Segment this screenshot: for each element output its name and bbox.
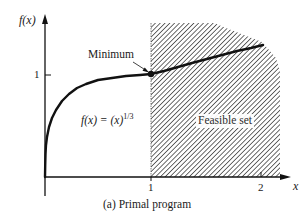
y-axis-arrow-icon bbox=[42, 14, 48, 24]
minimum-point bbox=[148, 71, 154, 77]
feasible-set-label: Feasible set bbox=[196, 114, 254, 128]
minimum-pointer-arrowhead-icon bbox=[143, 67, 150, 72]
function-label-base: f(x) = (x) bbox=[81, 114, 123, 126]
function-label: f(x) = (x)1/3 bbox=[81, 113, 133, 127]
x-axis-label: x bbox=[293, 180, 298, 192]
y-tick-label-1: 1 bbox=[34, 69, 40, 80]
y-axis-label: f(x) bbox=[19, 14, 36, 26]
x-tick-label-2: 2 bbox=[258, 182, 264, 193]
x-tick-label-1: 1 bbox=[148, 182, 154, 193]
x-axis-arrow-icon bbox=[280, 174, 291, 180]
minimum-label: Minimum bbox=[88, 49, 134, 61]
function-label-exponent: 1/3 bbox=[123, 112, 133, 121]
figure-caption: (a) Primal program bbox=[103, 199, 191, 211]
